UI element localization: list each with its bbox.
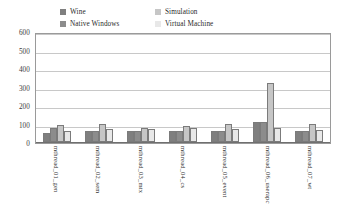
- chart-legend: Wine Simulation Native Windows Virtual M…: [60, 6, 260, 30]
- bar: [232, 129, 239, 142]
- bar: [127, 131, 134, 142]
- bar: [190, 128, 197, 142]
- bar-group: [127, 34, 155, 142]
- bar-chart: Wine Simulation Native Windows Virtual M…: [0, 0, 347, 217]
- legend-item-simulation: Simulation: [155, 6, 260, 18]
- legend-label-wine: Wine: [70, 8, 86, 17]
- y-axis-labels: 0100200300400500600: [0, 33, 33, 144]
- legend-item-virtual-machine: Virtual Machine: [155, 18, 260, 30]
- legend-label-simulation: Simulation: [165, 8, 198, 17]
- legend-item-native-windows: Native Windows: [60, 18, 155, 30]
- plot-area: [35, 33, 331, 144]
- x-label-slot: mthread_06_userapc: [250, 144, 286, 216]
- bar: [148, 129, 155, 142]
- bar-group: [253, 34, 281, 142]
- legend-swatch-native-windows: [60, 21, 66, 27]
- bar: [295, 131, 302, 142]
- legend-swatch-wine: [60, 9, 66, 15]
- bar: [274, 128, 281, 142]
- bar: [225, 124, 232, 143]
- bar: [309, 124, 316, 142]
- y-tick-label: 500: [19, 48, 30, 56]
- bar: [99, 124, 106, 142]
- bar: [92, 131, 99, 142]
- bar: [50, 128, 57, 142]
- legend-swatch-virtual-machine: [155, 21, 161, 27]
- y-tick-label: 200: [19, 103, 30, 111]
- bar: [43, 133, 50, 142]
- x-label-slot: mthread_02_sem: [80, 144, 116, 216]
- x-tick-label: mthread_06_userapc: [264, 146, 271, 204]
- bar-group: [211, 34, 239, 142]
- x-tick-label: mthread_04_cs: [179, 146, 186, 188]
- bar: [134, 131, 141, 142]
- x-tick-label: mthread_07_wt: [306, 146, 313, 189]
- y-tick-label: 600: [19, 29, 30, 37]
- bar: [141, 128, 148, 142]
- bar: [218, 131, 225, 142]
- bar-group: [85, 34, 113, 142]
- bar-group: [43, 34, 71, 142]
- y-tick-label: 100: [19, 122, 30, 130]
- x-label-slot: mthread_03_mtx: [123, 144, 159, 216]
- bar: [211, 131, 218, 142]
- y-tick-label: 0: [26, 140, 30, 148]
- bar: [253, 122, 260, 142]
- bar: [316, 130, 323, 142]
- y-tick-label: 300: [19, 85, 30, 93]
- x-tick-label: mthread_05_event: [222, 146, 229, 197]
- bar: [183, 126, 190, 142]
- bar: [267, 83, 274, 142]
- x-axis-line: [36, 142, 330, 143]
- x-tick-label: mthread_02_sem: [95, 146, 102, 194]
- x-label-slot: mthread_05_event: [207, 144, 243, 216]
- x-axis-labels: mthread_01_genmthread_02_semmthread_03_m…: [35, 144, 331, 216]
- bar-group: [169, 34, 197, 142]
- legend-label-native-windows: Native Windows: [70, 20, 120, 29]
- bar: [169, 131, 176, 142]
- bar-groups: [36, 34, 330, 142]
- y-tick-label: 400: [19, 66, 30, 74]
- bar: [260, 122, 267, 142]
- x-tick-label: mthread_03_mtx: [137, 146, 144, 193]
- x-tick-label: mthread_01_gen: [53, 146, 60, 192]
- x-label-slot: mthread_01_gen: [38, 144, 74, 216]
- bar: [176, 131, 183, 142]
- bar: [64, 131, 71, 142]
- plot-area-wrapper: [35, 33, 331, 144]
- bar: [57, 125, 64, 142]
- x-label-slot: mthread_07_wt: [292, 144, 328, 216]
- bar-group: [295, 34, 323, 142]
- x-label-slot: mthread_04_cs: [165, 144, 201, 216]
- bar: [85, 131, 92, 142]
- legend-item-wine: Wine: [60, 6, 155, 18]
- legend-swatch-simulation: [155, 9, 161, 15]
- bar: [106, 129, 113, 142]
- bar: [302, 131, 309, 142]
- legend-label-virtual-machine: Virtual Machine: [165, 20, 213, 29]
